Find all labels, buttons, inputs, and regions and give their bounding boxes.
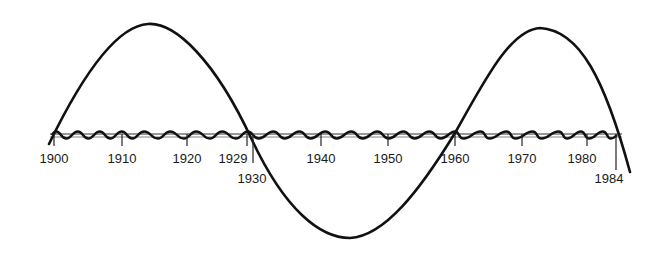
label-1929: 1929: [219, 151, 248, 166]
long-wave-curve: [49, 24, 630, 238]
label-1910: 1910: [108, 151, 137, 166]
x-axis-labels: 1900 1910 1920 1929 1930 1940 1950 1960 …: [40, 151, 624, 186]
short-wave-curve: [52, 132, 617, 139]
label-1920: 1920: [173, 151, 202, 166]
chart: 1900 1910 1920 1929 1930 1940 1950 1960 …: [0, 0, 664, 254]
label-1900: 1900: [40, 151, 69, 166]
label-1950: 1950: [374, 151, 403, 166]
label-1984: 1984: [595, 171, 624, 186]
label-1980: 1980: [568, 151, 597, 166]
label-1940: 1940: [307, 151, 336, 166]
label-1960: 1960: [441, 151, 470, 166]
label-1970: 1970: [508, 151, 537, 166]
label-1930: 1930: [238, 171, 267, 186]
